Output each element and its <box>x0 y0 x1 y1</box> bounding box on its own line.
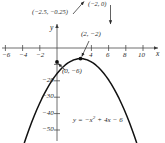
x-tick-label-4: 4 <box>89 52 93 59</box>
y-tick-label--50: −50 <box>42 126 54 133</box>
callout-label-neg2: (−2, 0) <box>88 1 106 8</box>
callout-label-vertex: (2, −2) <box>81 31 101 38</box>
callout-label-neg25: (−2.5, −0.25) <box>32 9 68 16</box>
equation-rhs: + 4x − 6 <box>95 116 122 124</box>
y-tick-label--30: −30 <box>42 93 54 100</box>
x-tick-label--6: −6 <box>2 52 10 59</box>
x-tick-label-8: 8 <box>123 52 127 59</box>
y-axis-label: y <box>50 24 53 32</box>
equation-lhs: y = −x <box>73 116 93 124</box>
x-tick-label--4: −4 <box>19 52 27 59</box>
x-tick-label-6: 6 <box>106 52 110 59</box>
x-tick-label--2: −2 <box>36 52 44 59</box>
callout-label-y-intercept: (0, −6) <box>62 68 82 75</box>
x-axis-label: x <box>156 50 159 58</box>
y-tick-label--40: −40 <box>42 110 54 117</box>
y-tick-label--20: −20 <box>42 77 54 84</box>
callout-arrow-neg25 <box>73 2 84 15</box>
callout-arrow-vertex <box>82 41 89 57</box>
y-intercept-point-marker <box>55 60 59 64</box>
equation-label: y = −x2 + 4x − 6 <box>73 117 123 124</box>
x-tick-label-10: 10 <box>138 52 145 59</box>
vertex-point-marker <box>79 57 83 61</box>
